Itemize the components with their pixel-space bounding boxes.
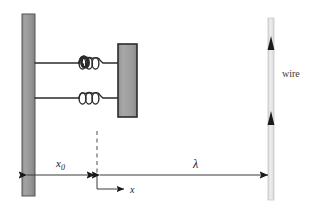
spring-lower (35, 93, 118, 105)
figure-canvas: x0 x λ wire (0, 0, 310, 214)
wall (22, 14, 35, 196)
label-lambda: λ (192, 157, 198, 171)
label-x0: x0 (55, 157, 65, 172)
label-wire: wire (282, 68, 300, 79)
label-x-axis: x (129, 184, 135, 195)
spring-upper (35, 56, 118, 69)
x-axis-arrow (97, 177, 124, 189)
physics-figure: x0 x λ wire (0, 0, 310, 214)
mass-block (118, 44, 137, 117)
